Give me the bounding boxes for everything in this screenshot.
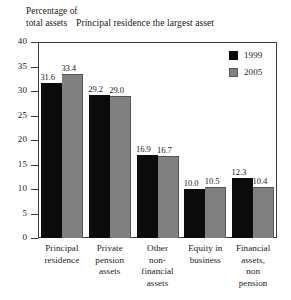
y-tick-label: 30 xyxy=(0,85,27,95)
y-tick-mark xyxy=(31,42,38,43)
bar-value-label: 12.3 xyxy=(232,167,247,177)
legend-swatch-2005 xyxy=(229,68,238,77)
x-axis-label-line: non xyxy=(224,266,282,278)
bar-value-label: 29.2 xyxy=(88,84,103,94)
bar-1999[interactable] xyxy=(89,95,110,238)
y-tick-label: 20 xyxy=(0,134,27,144)
y-tick-mark xyxy=(31,238,38,239)
y-axis-caption-line-1: Percentage of xyxy=(26,6,78,18)
bar-value-label: 29.0 xyxy=(109,85,124,95)
legend: 1999 2005 xyxy=(229,48,262,82)
bar-value-label: 33.4 xyxy=(61,63,76,73)
bar-2005[interactable] xyxy=(110,96,131,238)
bar-1999[interactable] xyxy=(137,155,158,238)
bar-1999[interactable] xyxy=(232,178,253,238)
x-axis-label-line: assets xyxy=(129,278,187,290)
bar-value-label: 16.7 xyxy=(157,145,172,155)
bar-group: 29.229.0 xyxy=(89,42,131,238)
y-tick-label: 35 xyxy=(0,61,27,71)
legend-label-2005: 2005 xyxy=(244,67,262,77)
bar-value-label: 16.9 xyxy=(136,144,151,154)
y-tick-label: 10 xyxy=(0,183,27,193)
legend-swatch-1999 xyxy=(229,51,238,60)
chart-figure: Percentage of total assets Principal res… xyxy=(0,0,291,300)
y-tick-label: 15 xyxy=(0,159,27,169)
x-axis-label: Financialassets,nonpension xyxy=(224,243,282,289)
y-tick-mark xyxy=(31,214,38,215)
y-tick-mark xyxy=(31,116,38,117)
y-axis-caption-line-2: total assets xyxy=(26,18,78,30)
bar-2005[interactable] xyxy=(62,74,83,238)
y-tick-label: 40 xyxy=(0,36,27,46)
y-tick-label: 0 xyxy=(0,232,27,242)
x-axis-label-line: pension xyxy=(224,278,282,290)
y-tick-mark xyxy=(31,189,38,190)
y-tick-mark xyxy=(31,67,38,68)
bar-group: 16.916.7 xyxy=(137,42,179,238)
legend-label-1999: 1999 xyxy=(244,50,262,60)
y-tick-label: 25 xyxy=(0,110,27,120)
bar-2005[interactable] xyxy=(253,187,274,238)
x-axis-label-line: Financial xyxy=(224,243,282,255)
y-tick-mark xyxy=(31,140,38,141)
x-axis-labels: PrincipalresidencePrivatepensionassetsOt… xyxy=(38,243,277,299)
bar-group: 10.010.5 xyxy=(184,42,226,238)
y-tick-mark xyxy=(31,165,38,166)
x-axis-label-line: assets, xyxy=(224,255,282,267)
legend-item-1999[interactable]: 1999 xyxy=(229,48,262,62)
bar-value-label: 10.0 xyxy=(184,178,199,188)
y-axis-caption: Percentage of total assets xyxy=(26,6,78,29)
bar-1999[interactable] xyxy=(41,83,62,238)
bar-2005[interactable] xyxy=(158,156,179,238)
y-tick-label: 5 xyxy=(0,208,27,218)
x-axis-label-line: financial xyxy=(129,266,187,278)
y-tick-mark xyxy=(31,91,38,92)
chart-title: Principal residence the largest asset xyxy=(76,17,214,28)
bar-2005[interactable] xyxy=(205,187,226,238)
bar-value-label: 10.4 xyxy=(253,176,268,186)
legend-item-2005[interactable]: 2005 xyxy=(229,65,262,79)
bar-value-label: 10.5 xyxy=(205,176,220,186)
bar-group: 31.633.4 xyxy=(41,42,83,238)
bar-value-label: 31.6 xyxy=(40,72,55,82)
bar-1999[interactable] xyxy=(184,189,205,238)
